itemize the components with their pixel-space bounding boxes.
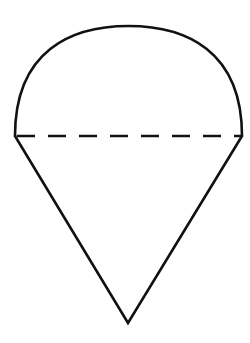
cone-diagram: Ice-cream-cone shape: a semicircular dom…	[0, 0, 250, 343]
cone-triangle	[15, 136, 242, 323]
semicircle-arc	[15, 26, 242, 136]
diagram-canvas	[0, 0, 250, 343]
